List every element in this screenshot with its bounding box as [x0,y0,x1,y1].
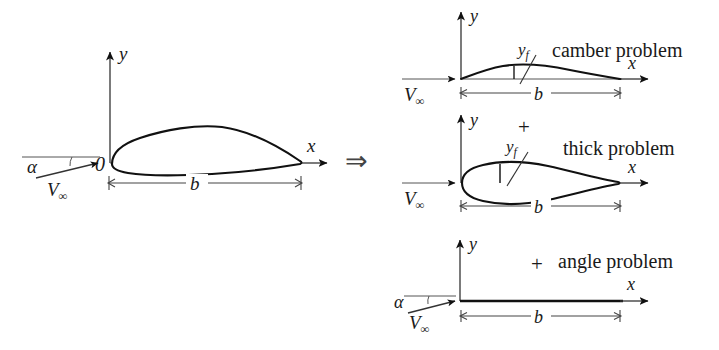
original-y-axis-label: y [117,43,128,64]
thick-y-axis-label: y [468,110,478,130]
camber-yf-label: yf [516,40,531,62]
original-x-axis-label: x [306,135,316,156]
original-freestream-arrow [36,163,98,178]
camber-problem-caption: camber problem [552,39,683,62]
airfoil-decomposition-figure: y x 0 b α [0,0,719,350]
angle-x-axis-label: x [626,274,635,294]
original-airfoil-outline [112,126,302,175]
thick-problem-caption: thick problem [563,137,675,160]
angle-problem-panel: + y x α V∞ [394,234,673,336]
angle-y-axis-label: y [467,234,477,254]
thick-yf-label: yf [504,137,519,159]
angle-alpha-label: α [394,292,404,312]
original-angle-label: α [27,156,38,177]
camber-mean-line [461,65,620,79]
angle-plus-operator: + [531,252,543,276]
thick-problem-panel: + y x V∞ yf [402,110,675,217]
angle-chord-dimension: b [460,307,621,327]
original-velocity-label: V∞ [47,179,68,203]
camber-y-axis-label: y [468,6,478,26]
implies-arrow-symbol: ⇒ [345,146,368,176]
original-angle-of-attack-group: α V∞ [22,156,100,203]
camber-chord-label: b [534,84,543,104]
thick-x-axis-label: x [627,157,636,177]
thick-chord-label: b [534,197,543,217]
angle-problem-caption: angle problem [558,250,673,273]
original-airfoil-group: y x 0 b α [22,43,327,203]
original-chord-label: b [190,173,200,194]
camber-chord-dimension: b [460,84,621,104]
camber-velocity-label: V∞ [404,84,425,108]
angle-arc [428,296,429,304]
original-angle-arc [70,157,72,166]
angle-chord-label: b [534,307,543,327]
thick-plus-operator: + [518,115,530,139]
angle-velocity-label: V∞ [409,312,430,336]
angle-attack-group: α V∞ [394,292,456,336]
figure-canvas: y x 0 b α [0,0,719,350]
original-chord-dimension: b [108,173,302,194]
camber-problem-panel: y x V∞ yf [402,6,683,108]
thick-velocity-label: V∞ [404,188,425,212]
